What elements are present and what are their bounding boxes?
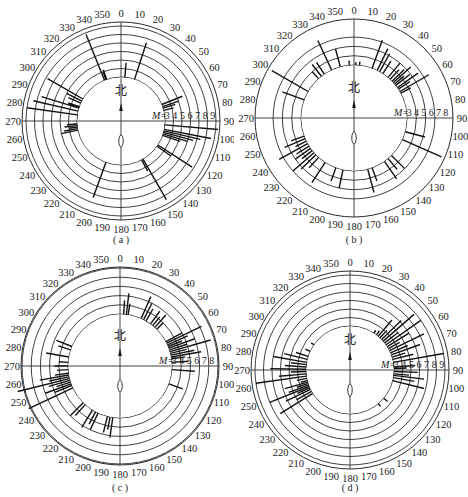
angle-tick-label: 310 — [263, 43, 279, 54]
magnitude-tick-label: 9 — [210, 110, 215, 121]
panel-caption: ( d ) — [342, 482, 359, 494]
angle-tick-label: 310 — [259, 295, 275, 306]
event-line — [172, 370, 195, 372]
angle-tick-label: 210 — [292, 206, 308, 217]
angle-tick-label: 330 — [288, 271, 304, 282]
event-line — [372, 168, 377, 181]
angle-tick-label: 320 — [277, 30, 293, 41]
angle-tick-label: 130 — [196, 185, 212, 196]
angle-tick-label: 80 — [221, 342, 232, 353]
angle-tick-label: 200 — [309, 214, 325, 225]
event-line — [59, 362, 68, 363]
angle-tick-label: 220 — [43, 443, 59, 454]
event-line — [378, 404, 380, 407]
magnitude-axis-label: M= — [393, 107, 409, 118]
angle-tick-label: 180 — [346, 221, 362, 232]
angle-tick-label: 180 — [113, 224, 129, 235]
angle-tick-label: 170 — [361, 471, 377, 482]
angle-tick-label: 340 — [305, 263, 321, 274]
magnitude-tick-label: 5 — [409, 359, 414, 370]
angle-tick-label: 30 — [169, 267, 180, 278]
event-line — [405, 132, 425, 137]
event-line — [82, 410, 93, 427]
angle-tick-label: 160 — [383, 214, 399, 225]
angle-tick-label: 300 — [249, 311, 265, 322]
event-line — [57, 370, 68, 371]
angle-tick-label: 50 — [198, 46, 209, 57]
angle-tick-label: 130 — [425, 434, 441, 445]
angle-tick-label: 310 — [30, 46, 46, 57]
event-line — [46, 353, 69, 357]
angle-tick-label: 350 — [93, 254, 109, 265]
event-line — [103, 416, 107, 432]
angle-tick-label: 110 — [448, 149, 463, 160]
angle-tick-label: 150 — [167, 209, 183, 220]
angle-tick-label: 270 — [4, 361, 20, 372]
angle-tick-label: 280 — [6, 342, 22, 353]
angle-tick-label: 10 — [134, 254, 145, 265]
angle-tick-label: 290 — [12, 79, 28, 90]
angle-tick-label: 220 — [44, 198, 60, 209]
angle-tick-label: 60 — [442, 59, 453, 70]
angle-tick-label: 80 — [451, 346, 462, 357]
angle-tick-label: 100 — [218, 379, 234, 390]
angle-tick-label: 140 — [182, 443, 198, 454]
angle-tick-label: 250 — [11, 397, 27, 408]
angle-tick-label: 150 — [166, 454, 182, 465]
magnitude-tick-label: 8 — [203, 110, 208, 121]
angle-tick-label: 190 — [327, 219, 343, 230]
event-line — [331, 168, 336, 181]
magnitude-tick-label: 4 — [401, 359, 406, 370]
angle-tick-label: 90 — [453, 365, 464, 376]
angle-tick-label: 290 — [11, 324, 27, 335]
magnitude-tick-label: 6 — [187, 110, 192, 121]
event-line — [291, 363, 306, 365]
event-line — [272, 71, 308, 92]
angle-tick-label: 320 — [43, 278, 59, 289]
event-line — [279, 374, 306, 376]
angle-tick-label: 330 — [58, 267, 74, 278]
angle-tick-label: 120 — [436, 419, 452, 430]
angle-tick-label: 300 — [253, 59, 269, 70]
event-line — [108, 417, 110, 430]
event-line — [157, 146, 171, 156]
angle-tick-label: 300 — [19, 307, 35, 318]
panel-c: 北010203040506070809010011012013014015016… — [0, 248, 234, 496]
magnitude-tick-label: 4 — [179, 355, 184, 366]
angle-tick-label: 140 — [183, 198, 199, 209]
angle-tick-label: 10 — [368, 6, 379, 17]
angle-tick-label: 150 — [396, 458, 412, 469]
north-label: 北 — [344, 333, 356, 347]
magnitude-tick-label: 5 — [187, 355, 192, 366]
panel-d: 北010203040506070809010011012013014015016… — [234, 248, 468, 496]
angle-tick-label: 340 — [309, 11, 325, 22]
angle-tick-label: 130 — [195, 430, 211, 441]
angle-tick-label: 100 — [219, 134, 234, 145]
angle-tick-label: 140 — [416, 195, 432, 206]
angle-tick-label: 20 — [152, 259, 163, 270]
angle-tick-label: 160 — [149, 462, 165, 473]
angle-tick-label: 100 — [448, 383, 464, 394]
angle-tick-label: 250 — [12, 152, 28, 163]
magnitude-axis-label: M= — [380, 359, 396, 370]
angle-tick-label: 260 — [6, 379, 22, 390]
event-line — [384, 161, 396, 179]
angle-tick-label: 110 — [444, 401, 459, 412]
angle-tick-label: 350 — [327, 6, 343, 17]
magnitude-tick-label: 6 — [194, 355, 199, 366]
event-line — [296, 352, 308, 356]
event-line — [110, 417, 113, 437]
angle-tick-label: 310 — [29, 291, 45, 302]
angle-tick-label: 240 — [19, 415, 35, 426]
angle-tick-label: 330 — [59, 22, 75, 33]
north-label: 北 — [348, 81, 360, 95]
event-line — [169, 384, 183, 389]
angle-tick-label: 70 — [446, 328, 457, 339]
panel-caption: ( a ) — [113, 234, 129, 246]
magnitude-tick-label: 8 — [432, 359, 437, 370]
panel-caption: ( b ) — [346, 234, 363, 246]
angle-tick-label: 10 — [364, 258, 375, 269]
angle-tick-label: 210 — [288, 458, 304, 469]
event-line — [58, 346, 70, 350]
magnitude-tick-label: 8 — [209, 355, 214, 366]
